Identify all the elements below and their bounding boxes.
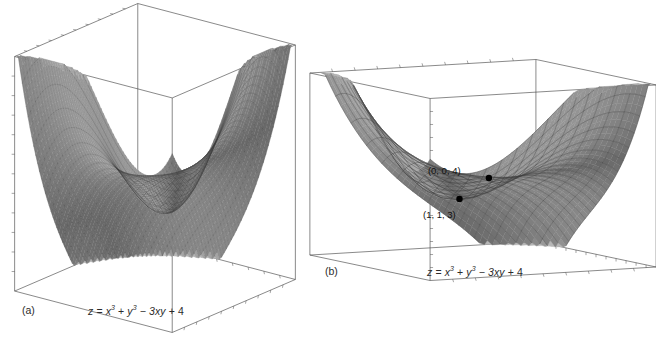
- caption-b-z: z: [427, 266, 432, 278]
- caption-b-eq: =: [435, 266, 441, 278]
- caption-b-const: 4: [517, 266, 523, 278]
- caption-b-y-exp: 3: [472, 265, 476, 272]
- caption-b-plus2: +: [508, 266, 514, 278]
- caption-a-eq: =: [96, 305, 102, 317]
- panel-a-caption: z = x3 + y3 − 3xy + 4: [88, 304, 184, 317]
- caption-b-term3: 3xy: [488, 266, 505, 278]
- panel-a-label: (a): [22, 304, 35, 316]
- caption-a-y-exp: 3: [133, 304, 137, 311]
- caption-a-plus1: +: [118, 305, 124, 317]
- local-minimum-label: (1, 1, 3): [423, 209, 456, 220]
- local-minimum-marker: [456, 196, 462, 202]
- caption-b-x-exp: 3: [450, 265, 454, 272]
- caption-a-z: z: [88, 305, 93, 317]
- panel-b-label: (b): [325, 265, 338, 277]
- caption-a-term3: 3xy: [149, 305, 166, 317]
- saddle-point-marker: [486, 175, 492, 181]
- caption-b-minus: −: [479, 266, 485, 278]
- caption-a-minus: −: [140, 305, 146, 317]
- caption-a-const: 4: [178, 305, 184, 317]
- saddle-point-label: (0, 0, 4): [428, 165, 461, 176]
- figure-canvas: [0, 0, 656, 344]
- caption-a-plus2: +: [169, 305, 175, 317]
- caption-b-plus1: +: [457, 266, 463, 278]
- caption-a-x-exp: 3: [111, 304, 115, 311]
- panel-b-caption: z = x3 + y3 − 3xy + 4: [427, 265, 523, 278]
